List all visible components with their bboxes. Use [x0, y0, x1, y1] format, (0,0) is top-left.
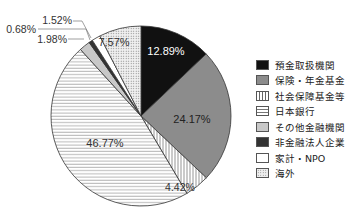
- legend-item-overseas: 海外: [256, 166, 345, 182]
- legend-swatch: [256, 106, 269, 116]
- legend-swatch: [256, 137, 269, 147]
- legend-swatch: [256, 60, 269, 70]
- legend-swatch: [256, 122, 269, 132]
- legend-label: 社会保障基金等: [275, 89, 345, 103]
- legend-swatch: [256, 153, 269, 163]
- value-label-deposit-institutions: 12.89%: [147, 45, 185, 57]
- value-label-bank-of-japan: 46.77%: [86, 137, 124, 149]
- value-label-overseas: 7.57%: [98, 36, 129, 48]
- legend-label: 海外: [275, 166, 295, 180]
- legend-label: 保険・年金基金: [275, 73, 345, 87]
- value-label-insurance-pension: 24.17%: [173, 113, 211, 125]
- legend-item-insurance-pension: 保険・年金基金: [256, 73, 345, 89]
- value-label-social-security: 4.42%: [165, 181, 195, 193]
- legend-label: 日本銀行: [275, 104, 315, 118]
- legend-item-household-npo: 家計・NPO: [256, 150, 345, 166]
- value-label-household-npo: 1.52%: [42, 14, 72, 26]
- legend-item-bank-of-japan: 日本銀行: [256, 104, 345, 120]
- legend-label: 非金融法人企業: [275, 135, 345, 149]
- legend-swatch: [256, 168, 269, 178]
- legend-label: その他金融機関: [275, 120, 345, 134]
- legend-item-other-financial: その他金融機関: [256, 119, 345, 135]
- value-label-other-financial: 1.98%: [37, 33, 67, 45]
- legend-label: 預金取扱機関: [275, 58, 335, 72]
- legend-swatch: [256, 91, 269, 101]
- legend-swatch: [256, 75, 269, 85]
- value-label-nonfinancial-corporations: 0.68%: [6, 23, 36, 35]
- legend-item-nonfinancial-corporations: 非金融法人企業: [256, 135, 345, 151]
- legend-item-deposit-institutions: 預金取扱機関: [256, 57, 345, 73]
- legend: 預金取扱機関 保険・年金基金 社会保障基金等 日本銀行 その他金融機関 非金融法…: [256, 57, 345, 181]
- legend-label: 家計・NPO: [275, 151, 325, 165]
- legend-item-social-security: 社会保障基金等: [256, 88, 345, 104]
